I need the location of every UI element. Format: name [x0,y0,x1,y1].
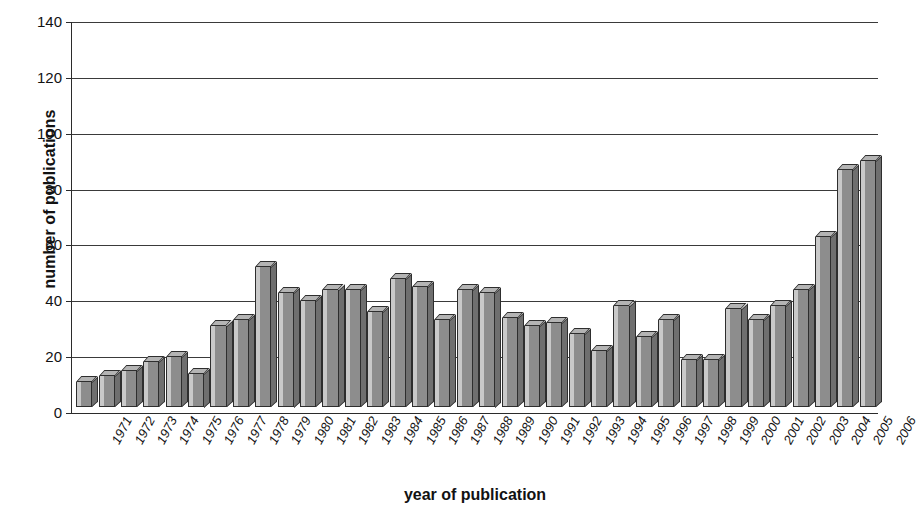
bar-front-face [345,290,361,407]
x-tick-label-1980: 1980 [310,414,337,447]
bar-1986 [412,287,428,413]
bar-side-face [361,284,367,407]
bar-side-face [585,329,591,407]
bar-front-face [188,374,204,408]
bar-1982 [322,290,338,413]
x-tick-label-1972: 1972 [131,414,158,447]
bar-1977 [210,326,226,413]
bar-front-face [76,382,92,407]
x-tick-label-1993: 1993 [601,414,628,447]
x-tick-label-1982: 1982 [355,414,382,447]
y-tick-mark-20 [66,357,72,358]
y-tick-label-40: 40 [16,293,62,308]
bar-2000 [725,309,741,413]
bar-1995 [613,306,629,413]
bar-front-face [457,290,473,407]
x-tick-label-1992: 1992 [579,414,606,447]
bar-front-face [99,376,115,407]
bar-side-face [764,315,770,407]
bar-1991 [524,326,540,413]
bar-side-face [876,156,882,407]
bar-1975 [166,357,182,413]
x-tick-label-1971: 1971 [109,414,136,447]
bar-1976 [188,374,204,414]
x-tick-label-1991: 1991 [556,414,583,447]
bar-side-face [809,284,815,407]
x-tick-label-1989: 1989 [512,414,539,447]
plot-area [72,22,878,413]
bar-front-face [143,362,159,407]
bar-side-face [115,371,121,407]
bar-front-face [322,290,338,407]
bar-1978 [233,320,249,413]
bar-2004 [815,237,831,413]
bar-2001 [748,320,764,413]
bar-front-face [748,320,764,407]
bar-1996 [636,337,652,413]
bar-side-face [652,332,658,407]
bar-side-face [249,315,255,407]
bar-side-face [719,354,725,407]
bar-side-face [271,262,277,407]
bar-front-face [479,293,495,408]
bar-1989 [479,293,495,414]
bar-1974 [143,362,159,413]
x-tick-label-1984: 1984 [400,414,427,447]
bar-1990 [502,318,518,413]
y-tick-mark-100 [66,134,72,135]
x-tick-label-1988: 1988 [489,414,516,447]
y-tick-mark-80 [66,190,72,191]
x-tick-label-1998: 1998 [713,414,740,447]
x-tick-label-1986: 1986 [444,414,471,447]
bar-1984 [367,312,383,413]
gridline-100 [72,134,878,135]
bar-front-face [502,318,518,407]
bar-front-face [658,320,674,407]
bar-front-face [210,326,226,407]
bar-side-face [450,315,456,407]
x-tick-label-2001: 2001 [780,414,807,447]
bar-front-face [636,337,652,407]
bar-side-face [406,273,412,407]
bar-1971 [76,382,92,413]
x-tick-label-1999: 1999 [735,414,762,447]
bar-front-face [278,293,294,408]
bar-2005 [837,170,853,413]
bar-side-face [540,321,546,407]
bar-front-face [703,360,719,407]
x-tick-label-2003: 2003 [825,414,852,447]
bar-1994 [591,351,607,413]
bar-front-face [300,301,316,407]
y-tick-label-20: 20 [16,349,62,364]
bar-front-face [681,360,697,407]
bar-side-face [182,351,188,407]
bar-front-face [166,357,182,407]
bar-side-face [607,346,613,407]
bar-1981 [300,301,316,413]
y-tick-mark-40 [66,301,72,302]
x-tick-label-1978: 1978 [265,414,292,447]
bar-side-face [339,284,345,407]
x-tick-label-2004: 2004 [847,414,874,447]
bar-1997 [658,320,674,413]
bar-side-face [831,231,837,407]
bar-1988 [457,290,473,413]
bar-1983 [345,290,361,413]
bar-side-face [674,315,680,407]
gridline-60 [72,245,878,246]
bar-1973 [121,371,137,413]
gridline-140 [72,22,878,23]
bar-1985 [390,279,406,413]
y-tick-label-60: 60 [16,237,62,252]
bar-side-face [697,354,703,407]
bar-side-face [786,301,792,407]
x-tick-label-1985: 1985 [422,414,449,447]
x-tick-label-1997: 1997 [691,414,718,447]
bar-front-face [837,170,853,407]
y-tick-mark-140 [66,22,72,23]
bar-front-face [121,371,137,407]
bar-side-face [159,357,165,407]
y-tick-label-0: 0 [16,405,62,420]
bar-front-face [524,326,540,407]
